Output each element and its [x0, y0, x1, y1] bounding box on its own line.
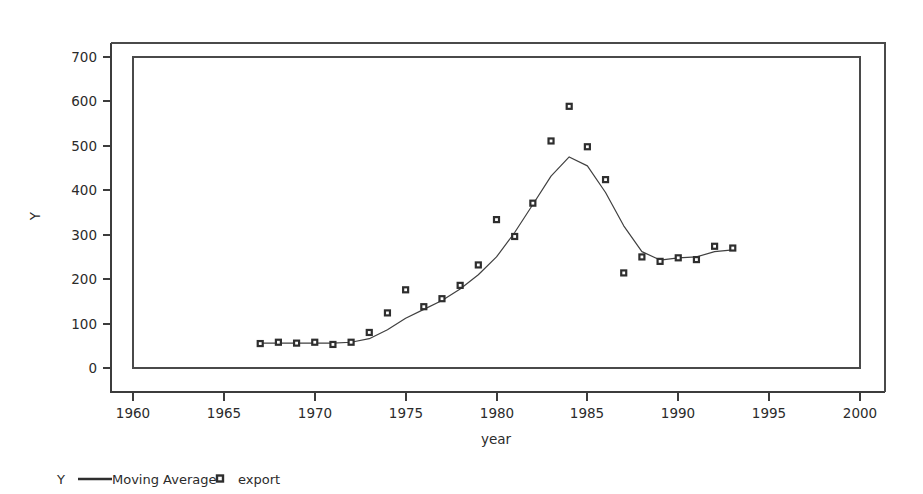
data-point-marker: [458, 283, 463, 288]
data-point-marker: [403, 287, 408, 292]
data-point-marker: [694, 257, 699, 262]
legend-group-label: Y: [56, 472, 65, 487]
data-point-marker: [549, 138, 554, 143]
data-point-marker: [276, 340, 281, 345]
y-tick-label: 300: [71, 227, 97, 243]
data-point-marker: [658, 259, 663, 264]
chart-screenshot: 700 600 500 400 300 200 100 0 Y 1960 196…: [0, 0, 923, 494]
moving-average-line: [260, 157, 733, 343]
x-tick-label: 1995: [752, 405, 786, 421]
x-axis-ticks: [133, 392, 860, 401]
data-point-marker: [367, 330, 372, 335]
y-tick-label: 0: [88, 360, 97, 376]
data-point-marker: [312, 340, 317, 345]
y-tick-label: 500: [71, 138, 97, 154]
data-point-marker: [476, 262, 481, 267]
data-point-marker: [585, 144, 590, 149]
y-tick-label: 600: [71, 93, 97, 109]
plot-box: [133, 57, 860, 368]
data-point-marker: [512, 234, 517, 239]
export-markers: [258, 104, 736, 347]
x-tick-label: 1985: [570, 405, 604, 421]
data-point-marker: [712, 244, 717, 249]
series-path-moving-average: [260, 157, 733, 343]
x-tick-label: 1970: [298, 405, 332, 421]
legend-item-label-moving-average: Moving Average: [112, 472, 216, 487]
data-point-marker: [603, 177, 608, 182]
x-tick-label: 1965: [207, 405, 241, 421]
data-point-marker: [621, 270, 626, 275]
plot-canvas: 700 600 500 400 300 200 100 0 Y 1960 196…: [0, 0, 923, 494]
y-axis-title: Y: [27, 211, 43, 221]
data-point-marker: [439, 296, 444, 301]
x-axis-title: year: [481, 431, 512, 447]
data-point-marker: [258, 341, 263, 346]
data-point-marker: [385, 310, 390, 315]
legend-square-marker-glyph: [217, 476, 223, 482]
data-point-marker: [639, 254, 644, 259]
legend-item-label-export: export: [238, 472, 280, 487]
x-tick-label: 1980: [480, 405, 514, 421]
data-point-marker: [330, 342, 335, 347]
data-point-marker: [530, 201, 535, 206]
data-point-marker: [294, 341, 299, 346]
x-axis-tick-labels: 1960 1965 1970 1975 1980 1985 1990 1995 …: [116, 405, 877, 421]
y-axis-tick-labels: 700 600 500 400 300 200 100 0: [71, 49, 97, 376]
data-point-marker: [567, 104, 572, 109]
y-tick-label: 200: [71, 271, 97, 287]
x-tick-label: 1960: [116, 405, 150, 421]
x-tick-label: 1990: [661, 405, 695, 421]
chart-legend: Y Moving Average export: [56, 472, 280, 487]
data-point-marker: [349, 340, 354, 345]
y-tick-label: 700: [71, 49, 97, 65]
y-axis-ticks: [103, 57, 111, 368]
y-tick-label: 100: [71, 316, 97, 332]
x-tick-label: 1975: [389, 405, 423, 421]
data-point-marker: [494, 217, 499, 222]
data-point-marker: [676, 255, 681, 260]
data-point-marker: [730, 246, 735, 251]
data-point-marker: [421, 304, 426, 309]
y-tick-label: 400: [71, 182, 97, 198]
x-tick-label: 2000: [843, 405, 877, 421]
